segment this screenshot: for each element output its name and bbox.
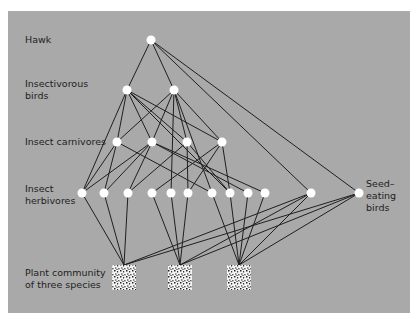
feeding-link [127, 90, 187, 142]
species-node-carnivores [113, 138, 122, 147]
species-node-herbivores [184, 189, 193, 198]
feeding-link [239, 193, 359, 265]
feeding-link [127, 90, 222, 142]
species-node-herbivores [78, 189, 87, 198]
feeding-link [127, 90, 152, 142]
label-insectivorous-birds: Insectivorous birds [25, 78, 88, 102]
species-node-herbivores [226, 189, 235, 198]
feeding-link [174, 90, 187, 142]
species-node-carnivores [218, 138, 227, 147]
feeding-link [104, 142, 117, 193]
feeding-link [151, 40, 359, 193]
feeding-link [152, 142, 248, 193]
label-hawk: Hawk [25, 34, 51, 46]
feeding-link [180, 193, 188, 265]
feeding-link [127, 90, 230, 193]
species-node-herbivores [124, 189, 133, 198]
feeding-link [239, 193, 311, 265]
species-node-herbivores [307, 189, 316, 198]
plant-squares [112, 265, 251, 290]
plant-species-square [227, 265, 251, 290]
feeding-link [151, 40, 174, 90]
plant-species-square [112, 265, 136, 290]
species-node-herbivores [208, 189, 217, 198]
species-node-herbivores [167, 189, 176, 198]
species-node-carnivores [148, 138, 157, 147]
species-node-hawk [147, 36, 156, 45]
feeding-link [180, 193, 359, 265]
species-node-herbivores [261, 189, 270, 198]
feeding-link [124, 193, 311, 265]
feeding-link [124, 193, 359, 265]
feeding-link [180, 193, 311, 265]
species-node-birds [123, 86, 132, 95]
species-node-herbivores [148, 189, 157, 198]
feeding-link [124, 193, 128, 265]
feeding-link [127, 40, 151, 90]
feeding-link [82, 193, 124, 265]
species-node-seed_birds [355, 189, 364, 198]
feeding-link [82, 142, 152, 193]
species-node-herbivores [244, 189, 253, 198]
label-plant-community: Plant community of three species [25, 267, 106, 291]
feeding-link [104, 193, 124, 265]
feeding-links [82, 40, 359, 265]
feeding-link [128, 142, 187, 193]
feeding-link [174, 90, 212, 193]
species-node-carnivores [183, 138, 192, 147]
label-insect-herbivores: Insect herbivores [25, 183, 75, 207]
feeding-link [174, 90, 222, 142]
plant-species-square [168, 265, 192, 290]
species-node-herbivores [100, 189, 109, 198]
label-seed-eating-birds: Seed– eating birds [366, 178, 396, 214]
species-node-birds [170, 86, 179, 95]
label-insect-carnivores: Insect carnivores [25, 136, 106, 148]
